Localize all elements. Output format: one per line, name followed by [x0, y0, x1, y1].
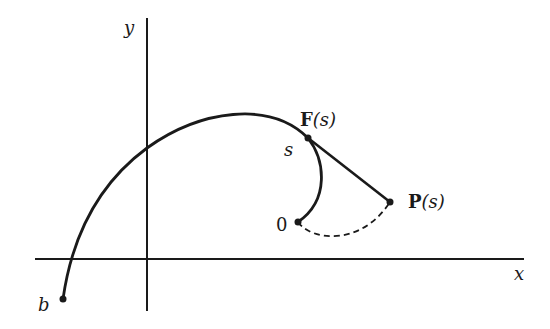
- main-curve: [63, 114, 321, 299]
- label-F-arg: (s): [313, 109, 336, 130]
- label-origin: 0: [276, 214, 287, 235]
- label-P-arg: (s): [422, 191, 445, 212]
- label-P-main: P: [408, 191, 422, 212]
- label-s: s: [284, 139, 293, 160]
- label-b: b: [38, 294, 50, 315]
- label-F-main: F: [300, 109, 313, 130]
- involute-diagram: y x b s 0 F(s) P(s): [0, 0, 550, 329]
- x-axis-label: x: [514, 263, 524, 284]
- label-F: F(s): [300, 109, 336, 130]
- label-P: P(s): [408, 191, 445, 212]
- point-origin: [295, 219, 302, 226]
- point-b: [60, 296, 67, 303]
- y-axis-label: y: [123, 17, 135, 38]
- point-P: [387, 199, 394, 206]
- point-F: [305, 135, 312, 142]
